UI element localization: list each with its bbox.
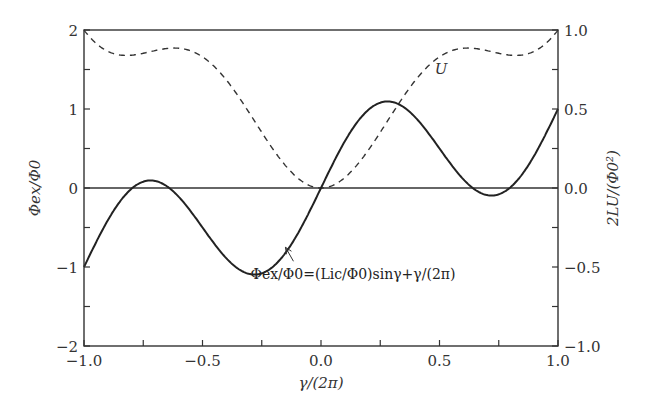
svg-text:1: 1 — [68, 101, 78, 119]
y-axis-left-label: Φex/Φ0 — [26, 159, 44, 216]
formula-annotation: Φex/Φ0=(Lic/Φ0)sinγ+γ/(2π) — [250, 266, 455, 282]
svg-text:0: 0 — [68, 180, 78, 198]
svg-text:−1: −1 — [56, 259, 78, 277]
x-axis-label: γ/(2π) — [298, 374, 343, 392]
svg-text:−2: −2 — [56, 338, 78, 356]
u-dashed-curve — [84, 30, 558, 188]
svg-text:−1.0: −1.0 — [564, 338, 600, 356]
tick-labels: −1.0−0.50.00.51.0210−1−21.00.50.0−0.5−1.… — [56, 22, 601, 370]
svg-text:2: 2 — [68, 22, 78, 40]
chart: −1.0−0.50.00.51.0210−1−21.00.50.0−0.5−1.… — [0, 0, 648, 415]
svg-text:0.0: 0.0 — [309, 352, 333, 370]
svg-text:1.0: 1.0 — [564, 22, 588, 40]
u-curve-label: U — [435, 60, 449, 78]
y-axis-right-label: 2LU/(Φ0²) — [604, 150, 622, 227]
annotation-arrow — [285, 247, 293, 261]
svg-text:−0.5: −0.5 — [184, 352, 220, 370]
svg-text:0.0: 0.0 — [564, 180, 588, 198]
svg-text:0.5: 0.5 — [564, 101, 588, 119]
svg-text:0.5: 0.5 — [428, 352, 452, 370]
svg-text:−0.5: −0.5 — [564, 259, 600, 277]
